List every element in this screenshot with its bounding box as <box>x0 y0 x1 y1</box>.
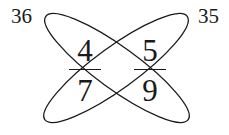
fraction-left-bar <box>69 69 101 70</box>
fraction-right-numerator: 5 <box>134 35 166 66</box>
product-right-label: 35 <box>198 6 219 27</box>
fraction-left-numerator: 4 <box>69 35 101 66</box>
fraction-left-denominator: 7 <box>69 75 101 106</box>
product-left-label: 36 <box>11 6 32 27</box>
fraction-right-denominator: 9 <box>134 75 166 106</box>
fraction-right-bar <box>134 69 166 70</box>
loop-5-times-7 <box>32 0 199 135</box>
cross-multiplication-diagram: 36 35 4 7 5 9 <box>0 0 229 135</box>
cross-multiplication-loops <box>0 0 229 135</box>
loop-4-times-9 <box>33 0 200 135</box>
